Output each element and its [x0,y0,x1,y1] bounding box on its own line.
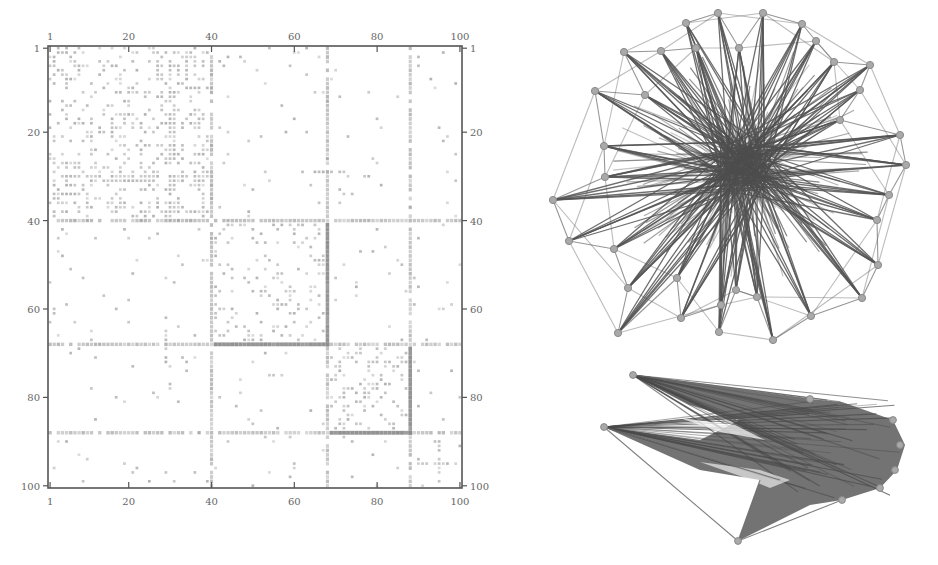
hub-lines [48,46,461,487]
svg-text:80: 80 [27,392,40,403]
adjacency-matrix-plot: 120406080100 120406080100 120406080100 1… [21,31,489,507]
axis-bottom: 120406080100 [47,482,470,507]
axis-top: 120406080100 [47,31,470,52]
svg-text:60: 60 [470,304,483,315]
svg-text:60: 60 [27,304,40,315]
axis-left: 120406080100 [21,43,48,492]
svg-text:100: 100 [450,31,469,42]
svg-text:100: 100 [450,496,469,507]
svg-text:40: 40 [205,31,218,42]
svg-text:1: 1 [47,31,53,42]
svg-text:20: 20 [122,31,135,42]
matrix-frame [48,46,462,488]
svg-text:80: 80 [371,496,384,507]
svg-text:60: 60 [288,496,301,507]
svg-text:1: 1 [34,43,40,54]
network-edges [604,375,905,541]
svg-text:40: 40 [470,216,483,227]
figure-canvas: 120406080100 120406080100 120406080100 1… [0,0,938,565]
network-graph-chevron [601,372,905,545]
svg-text:1: 1 [470,43,476,54]
svg-text:20: 20 [122,496,135,507]
axis-right: 120406080100 [462,43,489,492]
svg-text:1: 1 [47,496,53,507]
svg-text:60: 60 [288,31,301,42]
svg-text:80: 80 [371,31,384,42]
svg-text:20: 20 [470,127,483,138]
svg-text:20: 20 [27,127,40,138]
svg-text:100: 100 [470,481,489,492]
svg-text:40: 40 [27,216,40,227]
network-graph-radial [549,9,909,343]
matrix-cells [49,47,462,487]
svg-text:100: 100 [21,481,40,492]
svg-text:80: 80 [470,392,483,403]
svg-text:40: 40 [205,496,218,507]
